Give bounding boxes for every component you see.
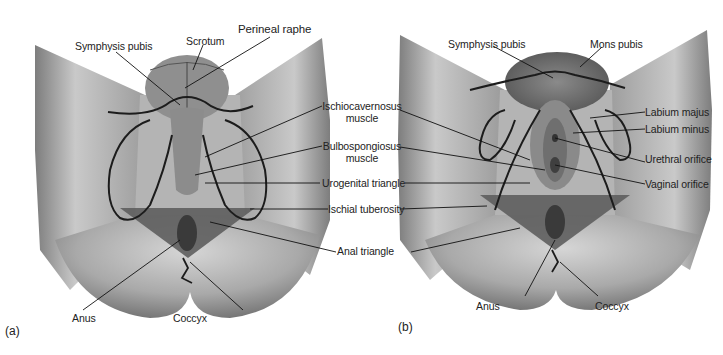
label-ischiocavernosus-muscle: Ischiocavernosus muscle (322, 100, 402, 124)
label-ischiocavernosus-line1: Ischiocavernosus (322, 100, 402, 112)
label-a-perineal-raphe: Perineal raphe (238, 23, 311, 35)
label-b-coccyx: Coccyx (595, 300, 629, 312)
label-urogenital-triangle: Urogenital triangle (322, 177, 405, 189)
panel-a-body (35, 38, 330, 318)
label-anal-triangle: Anal triangle (337, 245, 394, 257)
label-b-labium-majus: Labium majus (645, 106, 709, 118)
label-b-anus: Anus (476, 300, 500, 312)
panel-b-body (398, 30, 712, 310)
label-a-symphysis-pubis: Symphysis pubis (75, 40, 152, 52)
label-b-labium-minus: Labium minus (645, 123, 709, 135)
panel-b-tag: (b) (398, 320, 413, 334)
label-b-mons-pubis: Mons pubis (590, 38, 643, 50)
label-a-anus: Anus (72, 312, 96, 324)
label-bulbospongiosus-line2: muscle (346, 152, 379, 164)
label-b-urethral-orifice: Urethral orifice (645, 153, 712, 165)
label-a-coccyx: Coccyx (173, 312, 207, 324)
label-b-symphysis-pubis: Symphysis pubis (448, 38, 525, 50)
label-bulbospongiosus-muscle: Bulbospongiosus muscle (322, 140, 402, 164)
perineum-anatomy-figure: Symphysis pubis Scrotum Perineal raphe A… (0, 0, 723, 355)
label-a-scrotum: Scrotum (186, 35, 224, 47)
label-b-vaginal-orifice: Vaginal orifice (645, 178, 709, 190)
label-ischial-tuberosity: Ischial tuberosity (328, 203, 404, 215)
panel-a-tag: (a) (5, 324, 20, 338)
label-bulbospongiosus-line1: Bulbospongiosus (323, 140, 401, 152)
label-ischiocavernosus-line2: muscle (346, 112, 379, 124)
